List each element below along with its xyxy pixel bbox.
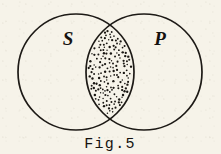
stipple-dot [125,87,127,89]
stipple-dot [114,93,116,95]
stipple-dot [119,104,121,106]
stipple-dot [98,47,100,49]
stipple-dot [126,91,128,93]
stipple-dot [120,40,122,42]
stipple-dot [123,60,125,62]
stipple-dot [106,89,108,91]
stipple-dot [95,66,97,68]
stipple-dot [106,104,108,106]
stipple-dot [113,74,115,76]
stipple-dot [102,92,104,94]
stipple-dot [119,81,121,83]
stipple-dot [100,49,102,51]
stipple-dot [125,52,127,54]
stipple-dot [93,64,95,66]
stipple-dot [122,47,124,49]
stipple-dot [129,73,131,75]
set-label-s: S [63,28,74,49]
stipple-dot [126,75,128,77]
stipple-dot [121,51,123,53]
stipple-dot [117,85,119,87]
stipple-dot [119,43,121,45]
stipple-dot [107,95,109,97]
stipple-dot [90,88,92,90]
stipple-dot [123,72,125,74]
stipple-dot [111,39,113,41]
stipple-dot [106,30,108,32]
stipple-dot [93,82,95,84]
stipple-dot [106,100,108,102]
stipple-dot [104,37,106,39]
stipple-dot [110,75,111,76]
stipple-dot [103,105,105,107]
stipple-dot [115,40,117,42]
stipple-dot [103,52,105,54]
stipple-dot [108,58,110,60]
stipple-dot [117,76,119,78]
stipple-dot [130,65,132,67]
stipple-dot [114,101,116,103]
stipple-dot [118,49,120,51]
stipple-dot [127,77,129,79]
stipple-dot [104,57,106,59]
stipple-dot [104,90,106,92]
stipple-dot [103,44,105,46]
stipple-dot [104,63,106,65]
stipple-dot [109,62,111,64]
stipple-dot [117,87,119,89]
stipple-dot [104,71,106,73]
stipple-dot [98,103,100,105]
stipple-dot [100,58,102,60]
stipple-dot [95,98,97,100]
stipple-dot [112,111,114,113]
stipple-dot [110,98,112,100]
stipple-dot [122,79,123,80]
stipple-dot [116,74,118,76]
stipple-dot [91,77,93,79]
stipple-dot [102,55,104,57]
stipple-dot [110,36,112,38]
stipple-dot [116,69,118,71]
stipple-dot [118,101,120,103]
stipple-dot [126,60,128,62]
stipple-dot [124,83,126,85]
stipple-dot [113,49,115,51]
stipple-dot [100,87,102,89]
stipple-dot [119,72,121,74]
stipple-dot [90,71,92,73]
stipple-dot [98,73,100,75]
figure-container: S P Fig.5 [0,0,221,154]
stipple-dot [104,47,105,48]
stipple-dot [100,92,101,93]
stipple-dot [102,89,104,91]
stipple-dot [121,101,123,103]
stipple-dot [122,94,124,96]
stipple-dot [88,67,90,69]
venn-diagram-svg: S P Fig.5 [0,0,221,154]
stipple-dot [102,98,103,99]
stipple-dot [98,66,100,68]
stipple-dot [126,69,128,71]
stipple-dot [114,107,116,109]
stipple-dot [112,70,114,72]
stipple-dot [117,61,119,63]
stipple-dot [92,68,94,70]
stipple-dot [95,83,97,85]
stipple-dot [110,52,112,54]
stipple-dot [97,54,99,56]
stipple-dot [108,46,110,48]
stipple-dot [128,59,130,61]
stipple-dot [123,65,125,67]
stipple-dot [121,97,122,98]
stipple-dot [103,76,105,78]
stipple-dot [100,80,102,82]
stipple-dot [111,108,113,110]
stipple-dot [104,94,106,96]
stipple-dot [106,50,107,51]
stipple-dot [99,44,101,46]
stipple-dot [95,90,97,92]
stipple-dot [126,64,128,66]
stipple-dot [115,65,117,67]
figure-caption: Fig.5 [84,136,136,153]
set-label-p: P [153,28,166,49]
